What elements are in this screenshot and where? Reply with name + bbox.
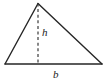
height-label: h bbox=[42, 27, 48, 38]
base-label: b bbox=[53, 69, 59, 80]
triangle-left-edge bbox=[5, 4, 38, 65]
triangle-diagram: h b bbox=[0, 0, 108, 84]
